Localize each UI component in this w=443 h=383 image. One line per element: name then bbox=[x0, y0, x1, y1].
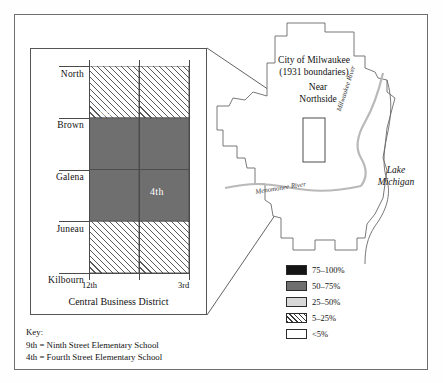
avenue-rule-mid bbox=[139, 60, 140, 280]
legend-row-4: <5% bbox=[286, 326, 345, 341]
legend-row-0: 75–100% bbox=[286, 262, 345, 277]
grid-cell-r0c1 bbox=[139, 66, 189, 118]
key-heading: Key: bbox=[26, 326, 162, 339]
grid-cell-r3c0 bbox=[89, 221, 139, 273]
legend-label-25-50: 25–50% bbox=[312, 297, 340, 307]
legend-swatch-75-100 bbox=[286, 265, 307, 275]
legend-label-50-75: 50–75% bbox=[312, 281, 340, 291]
near-northside-line2: Northside bbox=[299, 94, 336, 104]
street-label-kilbourn: Kilbourn bbox=[31, 275, 84, 285]
near-northside-label: Near Northside bbox=[263, 81, 373, 105]
figure-root: City of Milwaukee (1931 boundaries) Near… bbox=[0, 0, 443, 383]
legend-swatch-25-50 bbox=[286, 297, 307, 307]
avenue-rule-3rd bbox=[189, 60, 190, 280]
key-line-4th: 4th = Fourth Street Elementary School bbox=[26, 351, 162, 364]
grid-cell-r2c1 bbox=[139, 170, 189, 222]
grid-cell-r0c0 bbox=[89, 66, 139, 118]
street-rule-kilbourn bbox=[59, 273, 189, 274]
grid-cell-r2c0 bbox=[89, 170, 139, 222]
key-line-9th: 9th = Ninth Street Elementary School bbox=[26, 339, 162, 352]
grid-cell-r3c1 bbox=[139, 221, 189, 273]
near-northside-line1: Near bbox=[309, 82, 327, 92]
grid-cell-r1c1 bbox=[139, 118, 189, 170]
city-map-title-line2: (1931 boundaries) bbox=[279, 67, 348, 77]
legend-label-under-5: <5% bbox=[312, 329, 328, 339]
lake-michigan-line2: Michigan bbox=[378, 177, 414, 187]
legend-row-3: 5–25% bbox=[286, 310, 345, 325]
legend: 75–100% 50–75% 25–50% 5–25% <5% bbox=[286, 262, 345, 342]
avenue-label-12th: 12th bbox=[82, 280, 97, 290]
key-block: Key: 9th = Ninth Street Elementary Schoo… bbox=[26, 326, 162, 364]
street-label-juneau: Juneau bbox=[31, 224, 84, 234]
avenue-rule-12th bbox=[89, 60, 90, 280]
city-map: City of Milwaukee (1931 boundaries) Near… bbox=[215, 18, 430, 268]
school-tag-9th: 9th bbox=[100, 108, 114, 119]
street-label-galena: Galena bbox=[31, 172, 84, 182]
city-map-title: City of Milwaukee (1931 boundaries) bbox=[229, 54, 399, 78]
near-northside-inset: 9th 4th North Brown Galena Juneau Kilbou… bbox=[30, 48, 207, 315]
street-label-north: North bbox=[31, 69, 84, 79]
avenue-label-3rd: 3rd bbox=[178, 280, 189, 290]
central-business-district-caption: Central Business District bbox=[31, 296, 206, 307]
legend-row-2: 25–50% bbox=[286, 294, 345, 309]
city-map-title-line1: City of Milwaukee bbox=[278, 55, 350, 65]
legend-swatch-under-5 bbox=[286, 329, 307, 339]
school-tag-4th: 4th bbox=[150, 186, 164, 197]
legend-label-5-25: 5–25% bbox=[312, 313, 336, 323]
legend-label-75-100: 75–100% bbox=[312, 265, 345, 275]
legend-swatch-5-25 bbox=[286, 313, 307, 323]
lake-michigan-line1: Lake bbox=[387, 165, 405, 175]
lake-michigan-label: Lake Michigan bbox=[367, 164, 425, 188]
legend-row-1: 50–75% bbox=[286, 278, 345, 293]
legend-swatch-50-75 bbox=[286, 281, 307, 291]
grid-cell-r1c0 bbox=[89, 118, 139, 170]
street-label-brown: Brown bbox=[31, 120, 84, 130]
